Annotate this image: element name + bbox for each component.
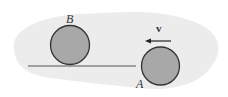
ball-b bbox=[51, 26, 90, 65]
diagram: B A v bbox=[0, 0, 228, 97]
ball-a bbox=[142, 47, 180, 85]
label-b: B bbox=[66, 13, 73, 25]
diagram-graphic bbox=[0, 0, 228, 97]
background-blob bbox=[14, 12, 219, 89]
label-velocity: v bbox=[156, 23, 162, 34]
label-a: A bbox=[136, 78, 143, 90]
